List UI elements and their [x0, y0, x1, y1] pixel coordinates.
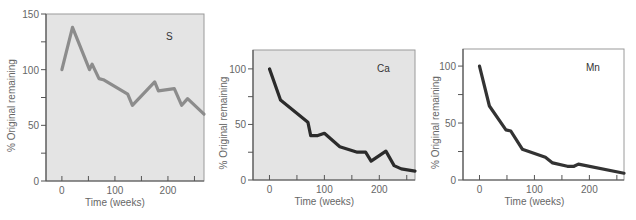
y-tick-label: 0: [240, 175, 246, 186]
x-axis-label: Time (weeks): [295, 196, 355, 207]
chart-mn-svg: 0100200050100Time (weeks)% Original rema…: [424, 0, 636, 220]
chart-s: 0100200050100150Time (weeks)% Original r…: [0, 0, 212, 220]
x-axis-label: Time (weeks): [505, 196, 565, 207]
y-tick-label: 100: [439, 61, 456, 72]
y-tick-label: 100: [22, 65, 39, 76]
y-tick-label: 50: [445, 118, 457, 129]
chart-mn: 0100200050100Time (weeks)% Original rema…: [424, 0, 636, 220]
chart-title: Ca: [377, 63, 390, 74]
y-tick-label: 100: [229, 64, 246, 75]
x-tick-label: 200: [160, 185, 177, 196]
chart-ca-svg: 0100200050100Time (weeks)% Original rema…: [212, 0, 424, 220]
x-tick-label: 0: [477, 184, 483, 195]
y-tick-label: 0: [450, 175, 456, 186]
y-tick-label: 150: [22, 9, 39, 20]
x-tick-label: 200: [581, 184, 598, 195]
x-tick-label: 100: [526, 184, 543, 195]
x-tick-label: 100: [107, 185, 124, 196]
y-axis-label: % Original remaining: [430, 76, 441, 169]
x-tick-label: 0: [59, 185, 65, 196]
x-tick-label: 200: [371, 184, 388, 195]
chart-s-svg: 0100200050100150Time (weeks)% Original r…: [0, 0, 212, 220]
x-axis-label: Time (weeks): [85, 197, 145, 208]
y-tick-label: 50: [28, 120, 40, 131]
y-tick-label: 0: [33, 176, 39, 187]
chart-title: S: [166, 31, 173, 42]
y-axis-label: % Original remaining: [218, 77, 229, 170]
y-axis-label: % Original remaining: [6, 59, 17, 152]
y-tick-label: 50: [235, 119, 247, 130]
x-tick-label: 100: [316, 184, 333, 195]
x-tick-label: 0: [267, 184, 273, 195]
chart-title: Mn: [586, 62, 600, 73]
chart-ca: 0100200050100Time (weeks)% Original rema…: [212, 0, 424, 220]
